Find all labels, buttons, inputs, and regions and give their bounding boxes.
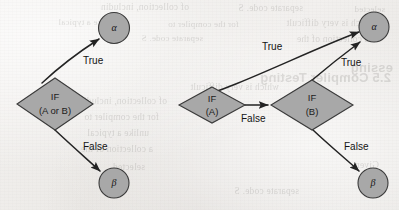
node-alpha-left[interactable]: α [99, 13, 130, 44]
edge-if-b-false: False [313, 130, 369, 171]
node-label-condition: (B) [306, 106, 319, 117]
node-label-condition: (A) [206, 106, 219, 117]
diagram-decomposed-condition: alpha (long shallow curve) --> True IF(B… [179, 12, 389, 198]
edge-label-false: False [83, 141, 108, 152]
node-label-if: IF [208, 93, 217, 104]
node-if-b[interactable]: IF (B) [271, 80, 353, 130]
edge-label-false: False [241, 113, 266, 124]
node-label-if: IF [51, 91, 60, 102]
node-label-alpha: α [111, 22, 117, 33]
edge-label-true: True [341, 57, 362, 68]
node-label-condition: (A or B) [39, 105, 71, 116]
node-beta-right[interactable]: β [358, 168, 388, 198]
diagram-compound-condition: alpha --> True beta --> False α [17, 13, 130, 199]
edge-label-true: True [262, 41, 283, 52]
node-label-alpha: α [371, 21, 377, 32]
flowchart-svg: alpha --> True beta --> False α [0, 0, 399, 210]
edge-compound-false: False [55, 130, 108, 171]
edge-label-false: False [344, 141, 369, 152]
edge-if-a-false: False [241, 105, 268, 124]
figure-page: selected separate code. S of collection,… [0, 0, 399, 210]
edge-compound-true: True [42, 39, 104, 83]
node-label-if: IF [308, 92, 317, 103]
node-alpha-right[interactable]: α [359, 12, 389, 42]
node-beta-left[interactable]: β [99, 168, 129, 198]
node-label-beta: β [370, 177, 376, 188]
diagram-layer: alpha --> True beta --> False α [0, 0, 399, 210]
node-if-a-or-b[interactable]: IF (A or B) [17, 78, 93, 130]
node-label-beta: β [111, 177, 117, 188]
node-if-a[interactable]: IF (A) [179, 87, 245, 123]
edge-label-true: True [83, 55, 104, 66]
